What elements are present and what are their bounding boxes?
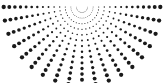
- sunburst-dot: [37, 57, 41, 61]
- sunburst-dot: [107, 16, 109, 18]
- sunburst-dot: [111, 31, 113, 33]
- sunburst-dot: [143, 28, 147, 32]
- sunburst-dot: [67, 23, 68, 24]
- sunburst-dot: [101, 63, 104, 66]
- sunburst-dot: [80, 72, 84, 76]
- sunburst-dot: [78, 17, 79, 18]
- sunburst-dot: [50, 18, 52, 20]
- sunburst-dot: [30, 65, 34, 69]
- sunburst-dot: [106, 49, 109, 52]
- sunburst-dot: [123, 21, 125, 23]
- sunburst-dot: [138, 26, 141, 29]
- sunburst-dot: [103, 68, 107, 72]
- sunburst-dot: [127, 61, 131, 65]
- sunburst-dot: [98, 53, 101, 56]
- sunburst-dot: [45, 48, 48, 51]
- sunburst-dot: [33, 45, 36, 48]
- sunburst-dot: [17, 28, 21, 32]
- sunburst-dot: [91, 12, 92, 13]
- sunburst-dot: [77, 9, 78, 10]
- sunburst-dot: [74, 27, 75, 28]
- sunburst-dot: [87, 22, 88, 23]
- sunburst-dot: [76, 7, 77, 8]
- sunburst-dot: [52, 23, 54, 25]
- sunburst-dot: [37, 31, 40, 34]
- sunburst-dot: [89, 15, 90, 16]
- sunburst-dot: [87, 9, 88, 10]
- sunburst-dot: [81, 23, 82, 24]
- sunburst-dot: [76, 34, 78, 36]
- sunburst-dot: [19, 5, 22, 8]
- sunburst-dot: [92, 10, 93, 11]
- sunburst-dot: [50, 59, 53, 62]
- sunburst-dot: [101, 40, 103, 42]
- sunburst-dot: [80, 67, 83, 70]
- sunburst-dot: [79, 23, 80, 24]
- sunburst-dot: [132, 48, 136, 52]
- sunburst-dot: [68, 43, 70, 45]
- sunburst-dot: [66, 12, 67, 13]
- sunburst-dot: [55, 73, 59, 77]
- sunburst-dot: [32, 33, 35, 36]
- sunburst-dot: [120, 6, 122, 8]
- sunburst-dot: [90, 21, 91, 22]
- sunburst-dot: [143, 41, 147, 45]
- sunburst-dot: [133, 25, 136, 28]
- sunburst-dot: [36, 6, 38, 8]
- sunburst-dot: [67, 30, 69, 32]
- sunburst-dot: [118, 19, 120, 21]
- sunburst-dot: [97, 12, 98, 13]
- sunburst-dot: [66, 48, 68, 50]
- sunburst-dot: [86, 34, 88, 36]
- sunburst-dot: [59, 10, 60, 11]
- sunburst-dot: [56, 36, 58, 38]
- sunburst-dot: [116, 48, 119, 51]
- sunburst-dot: [42, 38, 45, 41]
- sunburst-dot: [73, 50, 75, 52]
- sunburst-dot: [53, 54, 56, 57]
- sunburst-dot: [71, 61, 74, 64]
- sunburst-dot: [81, 40, 83, 42]
- sunburst-dot: [89, 50, 91, 52]
- sunburst-dot: [76, 22, 77, 23]
- sunburst-dot: [120, 28, 122, 30]
- sunburst-dot: [119, 13, 121, 15]
- sunburst-dot: [115, 35, 117, 37]
- sunburst-dot: [60, 14, 61, 15]
- sunburst-dot: [77, 10, 78, 11]
- sunburst-dot: [120, 52, 123, 55]
- sunburst-dot: [89, 27, 90, 28]
- sunburst-dot: [20, 16, 23, 19]
- sunburst-dot: [153, 5, 157, 9]
- sunburst-dot: [81, 56, 84, 59]
- sunburst-dot: [71, 10, 72, 11]
- sunburst-dot: [12, 44, 16, 48]
- sunburst-dot: [87, 7, 88, 8]
- sunburst-dot: [96, 15, 97, 16]
- sunburst-dot: [76, 8, 77, 9]
- sunburst-dot: [2, 5, 6, 9]
- sunburst-dot: [119, 73, 123, 77]
- sunburst-dot: [42, 6, 44, 8]
- sunburst-dot: [148, 44, 152, 48]
- sunburst-dot: [47, 35, 49, 37]
- sunburst-dot: [6, 32, 10, 36]
- sunburst-dot: [124, 31, 127, 34]
- sunburst-dot: [77, 9, 78, 10]
- sunburst-dot: [39, 21, 41, 23]
- sunburst-dot: [55, 16, 57, 18]
- sunburst-dot: [84, 23, 85, 24]
- sunburst-dot: [102, 14, 103, 15]
- sunburst-dot: [148, 30, 152, 34]
- sunburst-dot: [29, 48, 33, 52]
- sunburst-dot: [136, 15, 139, 18]
- sunburst-dot: [89, 55, 92, 58]
- sunburst-dot: [103, 32, 105, 34]
- sunburst-dot: [12, 30, 16, 34]
- sunburst-dot: [153, 32, 157, 36]
- sunburst-dot: [14, 17, 18, 21]
- sunburst-dot: [86, 10, 87, 11]
- sunburst-dot: [81, 61, 84, 64]
- sunburst-dot: [44, 68, 48, 72]
- sunburst-dot: [33, 61, 37, 65]
